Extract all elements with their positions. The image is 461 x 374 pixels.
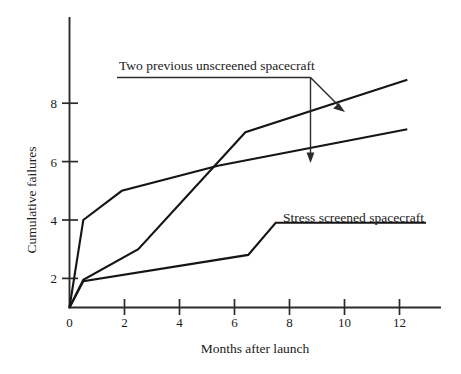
y-axis-title: Cumulative failures bbox=[24, 147, 40, 254]
x-tick-label-2: 2 bbox=[121, 316, 128, 329]
x-tick-label-6: 6 bbox=[231, 316, 238, 329]
x-tick-label-8: 8 bbox=[286, 316, 293, 329]
series-line-unscreened-b bbox=[70, 80, 408, 308]
unscreened-arrow-diagonal-head bbox=[333, 103, 345, 112]
chart-figure: 0 2 4 6 8 10 12 2 4 6 8 Months after lau… bbox=[0, 0, 461, 374]
x-tick-label-0: 0 bbox=[66, 316, 73, 329]
y-tick-label-6: 6 bbox=[51, 155, 58, 168]
series-line-stress-screened bbox=[70, 223, 427, 308]
unscreened-arrow-diagonal-shaft bbox=[311, 78, 339, 106]
x-tick-label-10: 10 bbox=[338, 316, 351, 329]
annotation-unscreened-label: Two previous unscreened spacecraft bbox=[119, 58, 315, 74]
y-tick-label-2: 2 bbox=[51, 272, 58, 285]
y-tick-label-8: 8 bbox=[51, 97, 58, 110]
x-tick-label-12: 12 bbox=[393, 316, 406, 329]
x-axis-title: Months after launch bbox=[201, 341, 310, 357]
x-tick-label-4: 4 bbox=[176, 316, 183, 329]
y-tick-label-4: 4 bbox=[51, 214, 58, 227]
unscreened-arrow-vertical-head bbox=[307, 153, 315, 164]
annotation-stress-screened-label: Stress screened spacecraft bbox=[283, 210, 424, 226]
